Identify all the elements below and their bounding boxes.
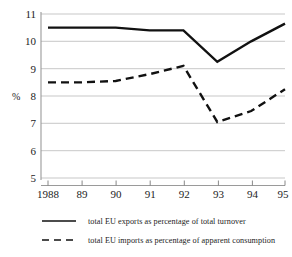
x-tick-label-89: 89	[77, 188, 89, 200]
y-tick-label-11: 11	[25, 8, 36, 20]
y-tick-label-10: 10	[25, 35, 37, 47]
x-tick-label-1988: 1988	[37, 188, 60, 200]
x-tick-label-95: 95	[278, 188, 290, 200]
x-tick-label-94: 94	[247, 188, 259, 200]
x-tick-label-93: 93	[213, 188, 225, 200]
y-tick-label-7: 7	[31, 117, 37, 129]
line-chart: 11 10 9 8 7 6 5 % 1988 89 90 91 92 93 94…	[0, 0, 292, 257]
y-tick-label-5: 5	[31, 172, 37, 184]
chart-container: 11 10 9 8 7 6 5 % 1988 89 90 91 92 93 94…	[0, 0, 292, 257]
legend-label-exports: total EU exports as percentage of total …	[88, 217, 246, 226]
x-tick-label-92: 92	[179, 188, 190, 200]
y-tick-label-8: 8	[31, 90, 37, 102]
legend-label-imports: total EU imports as percentage of appare…	[88, 236, 275, 245]
y-axis-unit-label: %	[12, 91, 20, 102]
y-tick-label-9: 9	[31, 63, 37, 75]
x-tick-label-90: 90	[111, 188, 123, 200]
y-tick-label-6: 6	[31, 145, 37, 157]
x-tick-label-91: 91	[145, 188, 156, 200]
